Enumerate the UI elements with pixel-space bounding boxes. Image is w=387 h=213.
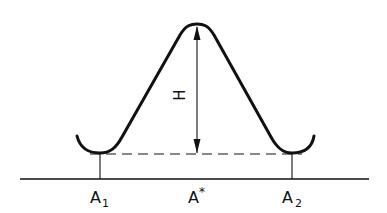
svg-text:1: 1 [102, 197, 109, 210]
svg-text:A: A [188, 188, 199, 207]
svg-text:A: A [282, 188, 293, 207]
arrowhead-down-icon [194, 139, 201, 153]
svg-text:2: 2 [295, 197, 302, 210]
position-label-a-star: A * [188, 185, 205, 207]
svg-text:A: A [90, 188, 101, 207]
height-double-arrow [194, 26, 201, 153]
position-label-a1: A 1 [90, 188, 109, 210]
position-label-a2: A 2 [282, 188, 302, 210]
energy-curve [77, 24, 314, 153]
diagram-canvas: H A 1 A * A 2 [0, 0, 387, 213]
height-label: H [171, 89, 189, 100]
arrowhead-up-icon [194, 26, 201, 40]
svg-text:*: * [199, 185, 205, 199]
